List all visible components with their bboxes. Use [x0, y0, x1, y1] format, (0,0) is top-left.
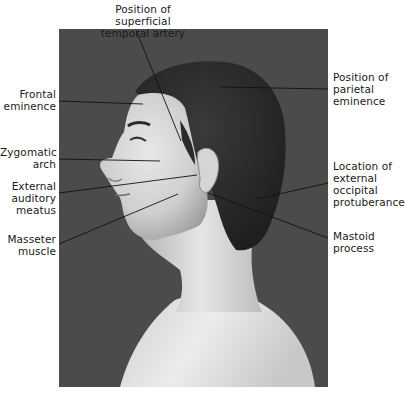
label-mastoid-process: Mastoid process — [333, 230, 403, 254]
label-frontal-eminence: Frontal eminence — [0, 88, 56, 112]
label-masseter-muscle: Masseter muscle — [0, 233, 56, 257]
label-parietal-eminence: Position of parietal eminence — [333, 71, 403, 107]
label-external-auditory-meatus: External auditory meatus — [0, 180, 56, 216]
label-external-occipital-protuberance: Location of external occipital protubera… — [333, 160, 403, 208]
label-superficial-temporal-artery: Position of superficial temporal artery — [88, 3, 198, 39]
label-zygomatic-arch: Zygomatic arch — [0, 146, 56, 170]
